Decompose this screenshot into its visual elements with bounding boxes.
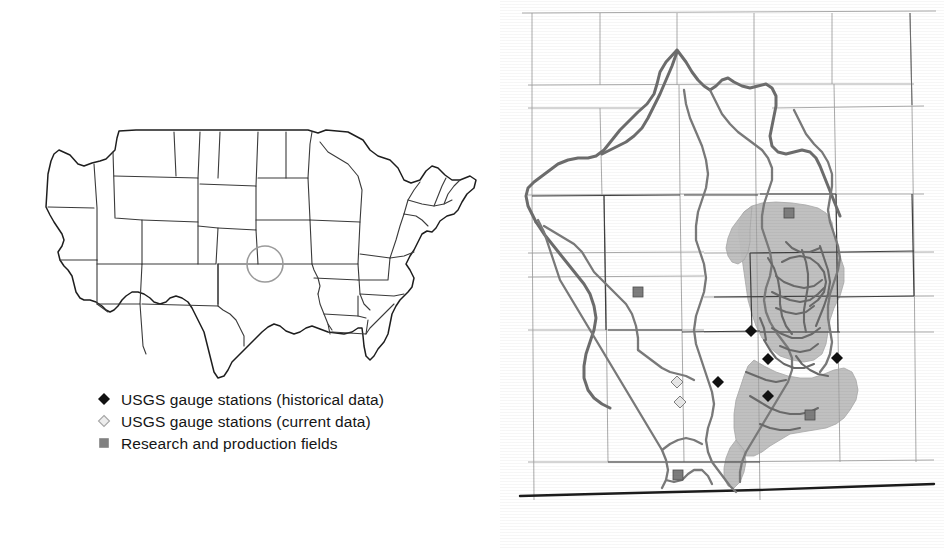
gauge-station-current	[671, 376, 683, 388]
legend-label-fields: Research and production fields	[121, 434, 338, 453]
open-diamond-icon	[96, 413, 112, 429]
legend-item-fields: Research and production fields	[96, 432, 456, 454]
basin-detail-panel	[500, 0, 944, 548]
gauge-station-historical	[762, 353, 774, 365]
central-feeder	[638, 350, 694, 380]
state-boundary-line	[520, 484, 934, 496]
main-stem	[684, 90, 736, 492]
gauge-station-historical	[831, 352, 843, 364]
gauge-station-historical	[712, 376, 724, 388]
filled-diamond-icon	[96, 391, 112, 407]
west-tributary	[538, 220, 668, 488]
legend-label-historical: USGS gauge stations (historical data)	[121, 390, 384, 409]
conus-outline	[46, 130, 476, 378]
figure-root: USGS gauge stations (historical data) US…	[0, 0, 944, 548]
legend-item-current: USGS gauge stations (current data)	[96, 410, 456, 432]
map-frame-right	[910, 13, 912, 105]
legend-item-historical: USGS gauge stations (historical data)	[96, 388, 456, 410]
national-locator-panel: USGS gauge stations (historical data) US…	[0, 0, 500, 548]
central-feeder-2	[662, 438, 702, 450]
map-legend: USGS gauge stations (historical data) US…	[96, 388, 456, 454]
gauge-station-current	[674, 396, 686, 408]
us-states-outline	[46, 130, 476, 378]
legend-label-current: USGS gauge stations (current data)	[121, 412, 371, 431]
gauge-station-historical	[745, 325, 757, 337]
research-field-marker	[633, 287, 643, 297]
gauge-station-current-markers	[671, 376, 686, 408]
filled-square-icon	[96, 435, 112, 451]
watershed-lower-left	[536, 222, 610, 408]
basin-detail-map	[514, 0, 944, 548]
research-field-marker	[805, 410, 815, 420]
us-locator-map	[18, 128, 484, 383]
research-field-marker	[784, 208, 794, 218]
research-field-marker	[673, 470, 683, 480]
